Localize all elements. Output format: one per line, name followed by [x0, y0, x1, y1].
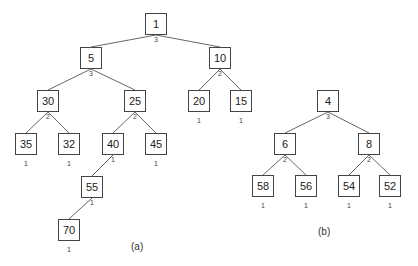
node-key: 8	[366, 138, 372, 150]
node-key: 4	[325, 95, 331, 107]
tree-edge	[328, 112, 369, 133]
tree-node: 1	[145, 13, 167, 35]
tree-node: 35	[15, 133, 37, 155]
node-rank: 2	[279, 156, 291, 163]
tree-node: 8	[358, 133, 380, 155]
figure-caption: (b)	[318, 226, 330, 237]
node-rank: 1	[300, 202, 312, 209]
node-key: 20	[193, 95, 205, 107]
node-rank: 2	[129, 113, 141, 120]
node-rank: 1	[63, 246, 75, 253]
node-key: 70	[63, 224, 75, 236]
node-rank: 1	[20, 160, 32, 167]
tree-node: 15	[230, 90, 252, 112]
node-key: 55	[86, 181, 98, 193]
tree-edge	[91, 69, 135, 90]
node-rank: 2	[363, 156, 375, 163]
tree-node: 45	[145, 133, 167, 155]
tree-node: 52	[379, 175, 401, 197]
tree-node: 56	[295, 175, 317, 197]
node-rank: 1	[193, 117, 205, 124]
node-key: 10	[214, 52, 226, 64]
node-rank: 3	[85, 70, 97, 77]
tree-node: 4	[317, 90, 339, 112]
tree-edge	[91, 35, 156, 47]
tree-node: 20	[188, 90, 210, 112]
tree-node: 70	[58, 219, 80, 241]
node-rank: 1	[235, 117, 247, 124]
tree-node: 10	[209, 47, 231, 69]
node-key: 45	[150, 138, 162, 150]
node-key: 58	[257, 180, 269, 192]
node-key: 25	[129, 95, 141, 107]
node-rank: 1	[107, 156, 119, 163]
node-key: 56	[300, 180, 312, 192]
tree-node: 58	[252, 175, 274, 197]
node-rank: 3	[322, 113, 334, 120]
node-rank: 1	[150, 160, 162, 167]
node-rank: 1	[343, 202, 355, 209]
node-rank: 1	[384, 202, 396, 209]
node-rank: 1	[257, 202, 269, 209]
node-rank: 1	[63, 160, 75, 167]
node-key: 35	[20, 138, 32, 150]
node-rank: 2	[214, 70, 226, 77]
node-key: 40	[107, 138, 119, 150]
node-rank: 2	[42, 113, 54, 120]
tree-node: 30	[37, 90, 59, 112]
node-key: 15	[235, 95, 247, 107]
node-key: 52	[384, 180, 396, 192]
tree-node: 32	[58, 133, 80, 155]
tree-node: 54	[338, 175, 360, 197]
node-key: 30	[42, 95, 54, 107]
node-key: 32	[63, 138, 75, 150]
node-key: 5	[88, 52, 94, 64]
node-key: 54	[343, 180, 355, 192]
tree-node: 55	[81, 176, 103, 198]
figure-caption: (a)	[131, 241, 143, 252]
node-key: 6	[282, 138, 288, 150]
node-rank: 1	[86, 199, 98, 206]
tree-node: 25	[124, 90, 146, 112]
tree-node: 5	[80, 47, 102, 69]
node-key: 1	[153, 18, 159, 30]
tree-node: 40	[102, 133, 124, 155]
node-rank: 3	[150, 36, 162, 43]
tree-node: 6	[274, 133, 296, 155]
tree-edge	[156, 35, 220, 47]
